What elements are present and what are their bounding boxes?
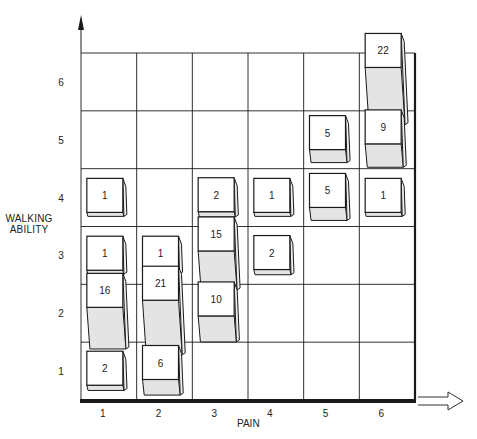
data-box: 16: [87, 273, 129, 349]
box-count-label: 22: [378, 45, 390, 56]
box-shade: [143, 380, 181, 396]
y-tick-label: 6: [58, 77, 64, 88]
y-axis-label-line2: ABILITY: [4, 224, 54, 235]
data-box: 2: [87, 351, 127, 390]
box-count-label: 2: [269, 248, 275, 259]
x-tick-label: 6: [378, 408, 384, 419]
box-side: [123, 178, 127, 216]
y-tick-label: 5: [58, 135, 64, 146]
box-count-label: 1: [158, 248, 164, 259]
box-shade: [198, 316, 236, 342]
box-count-label: 10: [211, 294, 223, 305]
box-shade: [365, 212, 402, 216]
box-count-label: 6: [158, 358, 164, 369]
box-shade: [310, 207, 348, 220]
x-axis-line: [80, 399, 416, 403]
data-box: 1: [87, 178, 127, 216]
y-tick-label: 3: [58, 250, 64, 261]
data-box: 2: [254, 236, 294, 275]
x-tick-label: 4: [267, 408, 273, 419]
box-count-label: 1: [269, 190, 275, 201]
box-shade: [310, 150, 348, 163]
y-tick-label: 4: [58, 193, 64, 204]
x-tick-label: 2: [156, 408, 162, 419]
y-axis-label: WALKING ABILITY: [4, 213, 54, 235]
box-shade: [254, 212, 291, 216]
box-count-label: 2: [213, 190, 219, 201]
box-side: [290, 236, 294, 275]
x-tick-label: 5: [323, 408, 329, 419]
y-tick-label: 1: [58, 366, 64, 377]
y-axis-arrow-icon: [78, 15, 84, 30]
x-tick-label: 3: [211, 408, 217, 419]
box-count-label: 1: [102, 248, 108, 259]
box-shade: [87, 385, 124, 390]
box-count-label: 15: [211, 229, 223, 240]
box-count-label: 5: [325, 128, 331, 139]
box-count-label: 21: [155, 278, 167, 289]
box-count-label: 1: [380, 190, 386, 201]
data-box: 1: [254, 178, 294, 216]
box-side: [234, 178, 238, 217]
data-box: 21: [143, 266, 186, 355]
y-axis-label-line1: WALKING: [4, 213, 54, 224]
x-tick-label: 1: [100, 408, 106, 419]
box-count-label: 16: [99, 285, 111, 296]
box-count-label: 2: [102, 363, 108, 374]
box-shade: [254, 270, 291, 275]
box-count-label: 5: [325, 185, 331, 196]
data-box: 10: [198, 282, 239, 342]
y-tick-label: 2: [58, 308, 64, 319]
chart-canvas: 123456123456 2259121511115216211026: [0, 0, 477, 439]
data-box: 2: [198, 178, 238, 217]
data-box: 6: [143, 346, 184, 396]
box-shade: [87, 212, 124, 216]
box-side: [123, 236, 127, 274]
box-side: [123, 351, 127, 390]
box-shade: [198, 212, 235, 217]
data-box: 1: [365, 178, 405, 216]
box-side: [401, 178, 405, 216]
data-box: 5: [310, 116, 351, 163]
data-box: 9: [365, 110, 406, 167]
box-shade: [365, 144, 403, 167]
box-count-label: 1: [102, 190, 108, 201]
box-side: [290, 178, 294, 216]
box-count-label: 9: [380, 122, 386, 133]
data-boxes: 2259121511115216211026: [87, 33, 408, 395]
data-box: 5: [310, 173, 351, 220]
data-box: 1: [87, 236, 127, 274]
grid: [81, 53, 415, 400]
box-shade: [87, 307, 126, 349]
data-box: 15: [198, 217, 240, 290]
x-axis-label: PAIN: [237, 418, 260, 429]
